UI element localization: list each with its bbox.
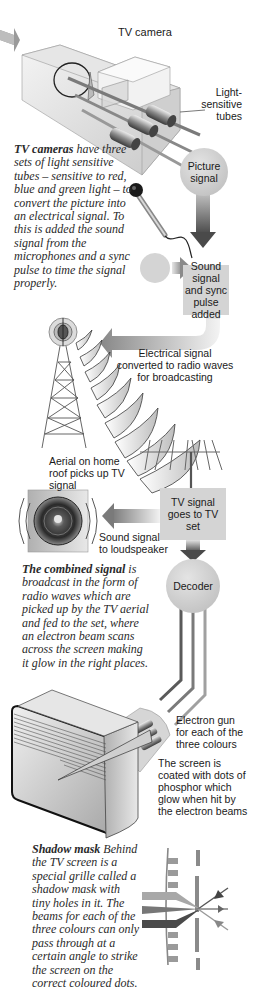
tv-cameras-caption: TV cameras have three sets of light sens…: [14, 143, 132, 290]
phosphor-label: The screen is coated with dots of phosph…: [158, 757, 250, 817]
light-sensitive-tubes-label: Light-sensitive tubes: [196, 86, 242, 122]
broadcast-label: Electrical signal converted to radio wav…: [116, 347, 234, 383]
picture-signal-label: Picture signal: [180, 160, 228, 184]
shadow-mask-diagram-icon: [142, 848, 228, 970]
shadow-mask-caption-body: Behind the TV screen is a special grille…: [32, 842, 139, 990]
electron-gun-label: Electron gun for each of the three colou…: [176, 714, 248, 750]
shadow-mask-caption-heading: Shadow mask: [32, 842, 100, 856]
aerial-label: Aerial on home roof picks up TV signal: [49, 455, 139, 491]
decoder-label: Decoder: [173, 580, 213, 592]
tv-cameras-caption-body: have three sets of light sensitive tubes…: [14, 142, 132, 290]
combined-signal-caption-heading: The combined signal: [22, 562, 125, 576]
shadow-mask-caption: Shadow mask Behind the TV screen is a sp…: [32, 843, 140, 990]
transmitter-tower-icon: [42, 318, 86, 448]
sound-sync-mixer-label: Sound signal and sync pulse added: [183, 260, 229, 320]
tv-signal-box: TV signal goes to TV set: [160, 488, 226, 540]
arrow-to-speaker-icon: [102, 503, 160, 529]
decoder-output-lines: [160, 608, 205, 725]
decoder-node: Decoder: [166, 559, 220, 613]
tv-cameras-caption-heading: TV cameras: [14, 142, 73, 156]
tv-signal-box-label: TV signal goes to TV set: [160, 496, 226, 532]
combined-signal-caption-body: is broadcast in the form of radio waves …: [22, 562, 149, 670]
picture-signal-node: Picture signal: [180, 148, 228, 196]
sound-sync-mixer-box: Sound signal and sync pulse added: [183, 265, 229, 315]
loudspeaker-icon: [19, 490, 97, 552]
microphone-icon: [129, 183, 192, 258]
speaker-label: Sound signal to loudspeaker: [99, 531, 169, 555]
crt-tv-icon: [12, 690, 170, 838]
combined-signal-caption: The combined signal is broadcast in the …: [22, 563, 150, 670]
tv-camera-title: TV camera: [118, 26, 218, 38]
light-arrow-icon: [0, 28, 20, 52]
